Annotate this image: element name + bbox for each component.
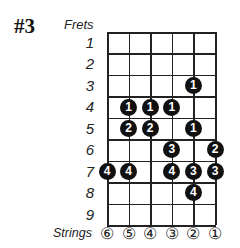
string-number: ③ <box>163 224 181 243</box>
finger-dot: 1 <box>142 99 159 116</box>
fret-number: 3 <box>74 77 94 94</box>
fret-line <box>107 53 216 55</box>
frets-label: Frets <box>64 17 94 32</box>
fret-line <box>107 75 216 77</box>
finger-dot: 4 <box>185 184 202 201</box>
diagram-title: #3 <box>14 14 35 39</box>
fret-number: 1 <box>74 34 94 51</box>
finger-dot: 3 <box>185 163 202 180</box>
fret-number: 4 <box>74 98 94 115</box>
finger-dot: 1 <box>120 99 137 116</box>
string-line <box>107 32 109 225</box>
string-line <box>172 32 174 225</box>
fret-number: 6 <box>74 141 94 158</box>
fret-number: 7 <box>74 163 94 180</box>
finger-dot: 3 <box>163 141 180 158</box>
string-line <box>215 32 217 225</box>
finger-dot: 4 <box>163 163 180 180</box>
string-number: ① <box>206 224 224 243</box>
fret-line <box>107 32 216 34</box>
string-number: ⑤ <box>120 224 138 243</box>
fret-line <box>107 96 216 98</box>
finger-dot: 2 <box>142 120 159 137</box>
fret-number: 9 <box>74 206 94 223</box>
fret-line <box>107 118 216 120</box>
finger-dot: 1 <box>185 77 202 94</box>
fret-line <box>107 139 216 141</box>
string-number: ④ <box>141 224 159 243</box>
string-number: ⑥ <box>98 224 116 243</box>
finger-dot: 1 <box>185 120 202 137</box>
fretboard-grid: 111122132444334 <box>107 32 215 225</box>
fret-number: 5 <box>74 120 94 137</box>
finger-dot: 1 <box>163 99 180 116</box>
finger-dot: 4 <box>99 163 116 180</box>
fret-number: 8 <box>74 184 94 201</box>
fret-number: 2 <box>74 55 94 72</box>
fret-line <box>107 161 216 163</box>
finger-dot: 2 <box>207 141 224 158</box>
string-number: ② <box>184 224 202 243</box>
fret-line <box>107 182 216 184</box>
strings-label: Strings <box>53 226 92 240</box>
finger-dot: 2 <box>120 120 137 137</box>
finger-dot: 4 <box>120 163 137 180</box>
fret-line <box>107 204 216 206</box>
finger-dot: 3 <box>207 163 224 180</box>
